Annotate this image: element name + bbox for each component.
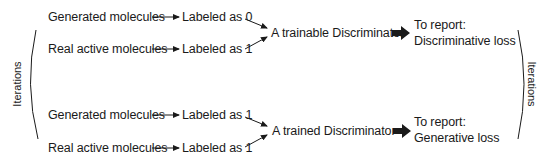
generated-molecules-text: Generated molecules: [48, 108, 165, 122]
trained-discriminator-text: A trained Discriminator: [272, 124, 395, 138]
thick-arrow-2-icon: [393, 124, 411, 138]
real-active-molecules-text: Real active molecules: [48, 42, 167, 56]
right-bracket: [518, 30, 524, 139]
label-text: Labeled as 1: [182, 141, 252, 155]
label-text: Labeled as 1: [182, 42, 252, 56]
report-heading: To report:: [414, 18, 466, 32]
discriminative-loss-text: Discriminative loss: [414, 34, 516, 48]
trainable-discriminator-text: A trainable Discriminator: [271, 26, 404, 40]
label-text: Labeled as 0: [182, 10, 252, 24]
real-active-molecules-text: Real active molecules: [48, 141, 167, 155]
report-heading: To report:: [414, 115, 466, 129]
label-text: Labeled as 1: [182, 108, 252, 122]
left-bracket: [30, 30, 38, 139]
generative-loss-text: Generative loss: [414, 131, 499, 145]
iterations-label-right: Iterations: [526, 61, 538, 106]
iterations-label-left: Iterations: [11, 61, 23, 106]
generated-molecules-text: Generated molecules: [48, 10, 165, 24]
